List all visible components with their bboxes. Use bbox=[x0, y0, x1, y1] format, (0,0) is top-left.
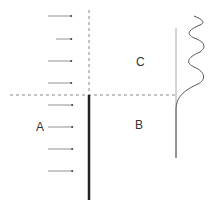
incident-arrows bbox=[48, 16, 73, 171]
diagram-canvas bbox=[0, 0, 223, 209]
region-label-c: C bbox=[136, 56, 145, 68]
region-label-b: B bbox=[135, 119, 143, 131]
intensity-curve bbox=[176, 16, 204, 158]
region-label-a: A bbox=[36, 121, 44, 133]
